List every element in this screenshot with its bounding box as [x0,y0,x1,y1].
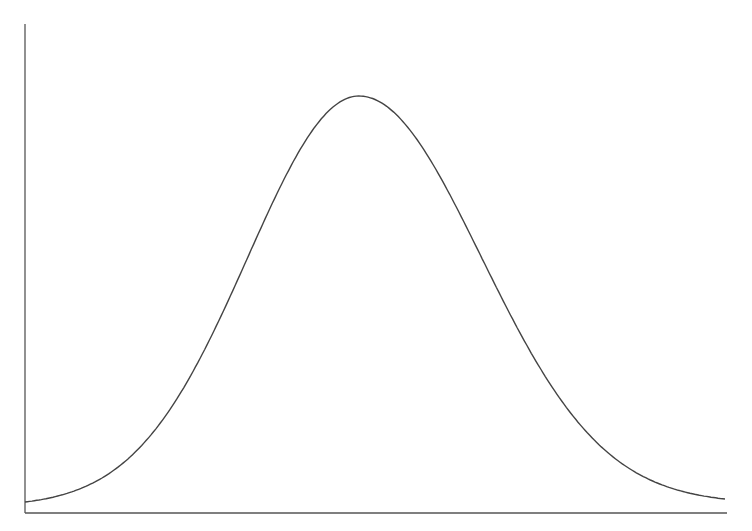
normal-distribution-curve [25,96,725,502]
bell-curve-chart [0,0,752,531]
